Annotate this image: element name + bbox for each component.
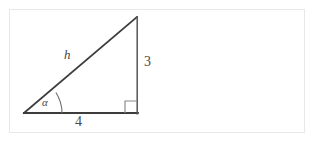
adjacent-side-label: 4 (75, 115, 82, 129)
triangle-hypotenuse-line (24, 17, 137, 113)
triangle-diagram-canvas (0, 0, 315, 143)
hypotenuse-label: h (64, 48, 71, 61)
angle-alpha-label: α (42, 97, 48, 108)
opposite-side-label: 3 (144, 55, 151, 69)
right-angle-marker-icon (125, 101, 137, 113)
angle-arc-icon (56, 93, 62, 114)
